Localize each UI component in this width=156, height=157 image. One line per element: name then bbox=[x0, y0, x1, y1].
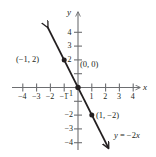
data-point-marker bbox=[62, 57, 67, 62]
point-label-origin: (0, 0) bbox=[80, 60, 98, 69]
y-tick-label-2: 2 bbox=[68, 56, 72, 64]
data-point-marker bbox=[89, 113, 94, 118]
x-tick-label--4: −4 bbox=[18, 93, 27, 101]
y-tick-label--2: −2 bbox=[65, 111, 74, 119]
x-tick-label-3: 3 bbox=[117, 93, 121, 101]
point-label-minus1-2: (−1, 2) bbox=[16, 55, 39, 64]
y-tick-label--4: −4 bbox=[65, 139, 74, 147]
y-tick-label--1: −1 bbox=[65, 90, 74, 98]
x-tick-label-1: 1 bbox=[90, 93, 94, 101]
point-label-1-minus2: (1, −2) bbox=[96, 111, 119, 120]
y-tick-label-3: 3 bbox=[68, 42, 72, 50]
equation-operator: = − bbox=[118, 130, 132, 140]
equation-variable: x bbox=[136, 130, 140, 140]
x-axis-label: x bbox=[143, 83, 147, 92]
graph-figure: −4 −3 −2 −1 1 2 3 4 4 3 2 −1 −2 −3 −4 y … bbox=[0, 0, 156, 157]
data-point-marker bbox=[75, 85, 80, 90]
x-tick-label--2: −2 bbox=[46, 93, 55, 101]
x-tick-label--3: −3 bbox=[32, 93, 41, 101]
equation-label: y = −2x bbox=[114, 131, 140, 140]
x-tick-label-2: 2 bbox=[103, 93, 107, 101]
y-tick-label--3: −3 bbox=[65, 125, 74, 133]
y-axis-label: y bbox=[67, 8, 71, 17]
x-tick-label-4: 4 bbox=[131, 93, 135, 101]
y-tick-label-4: 4 bbox=[68, 29, 72, 37]
